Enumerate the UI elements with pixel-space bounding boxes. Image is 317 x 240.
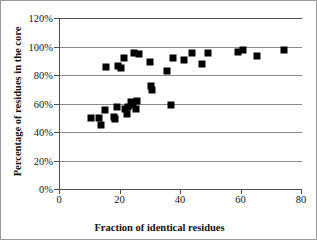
- plot-area: [59, 18, 301, 189]
- x-tick-label: 40: [165, 195, 195, 206]
- data-point: [111, 115, 118, 122]
- gridline-20: [60, 161, 302, 162]
- gridline-100: [60, 47, 302, 48]
- x-tick-label: 80: [286, 195, 316, 206]
- data-point: [189, 49, 196, 56]
- data-point: [169, 55, 176, 62]
- x-tick-label: 60: [226, 195, 256, 206]
- data-point: [132, 106, 139, 113]
- x-axis-title: Fraction of identical residues: [1, 222, 317, 233]
- data-point: [280, 47, 287, 54]
- data-point: [117, 64, 124, 71]
- scatter-chart-figure: 120% 100% 80% 60% 40% 20% 0% 0 20 40 60 …: [0, 0, 317, 240]
- data-point: [181, 57, 188, 64]
- x-tick-label: 0: [44, 195, 74, 206]
- y-axis-title: Percentage of residues in the core: [12, 7, 23, 197]
- data-point: [146, 58, 153, 65]
- data-point: [148, 86, 155, 93]
- gridline-80: [60, 75, 302, 76]
- gridline-120: [60, 18, 302, 19]
- data-point: [88, 115, 95, 122]
- data-point: [136, 50, 143, 57]
- data-point: [240, 46, 247, 53]
- data-point: [199, 60, 206, 67]
- gridline-60: [60, 104, 302, 105]
- data-point: [164, 68, 171, 75]
- data-point: [120, 55, 127, 62]
- x-axis-line: [60, 189, 302, 190]
- data-point: [96, 114, 103, 121]
- data-point: [102, 64, 109, 71]
- data-point: [97, 121, 104, 128]
- data-point: [123, 111, 130, 118]
- data-point: [133, 97, 140, 104]
- data-point: [102, 106, 109, 113]
- gridline-40: [60, 132, 302, 133]
- data-point: [114, 104, 121, 111]
- data-point: [204, 49, 211, 56]
- x-tick-label: 20: [105, 195, 135, 206]
- data-point: [253, 52, 260, 59]
- data-point: [167, 102, 174, 109]
